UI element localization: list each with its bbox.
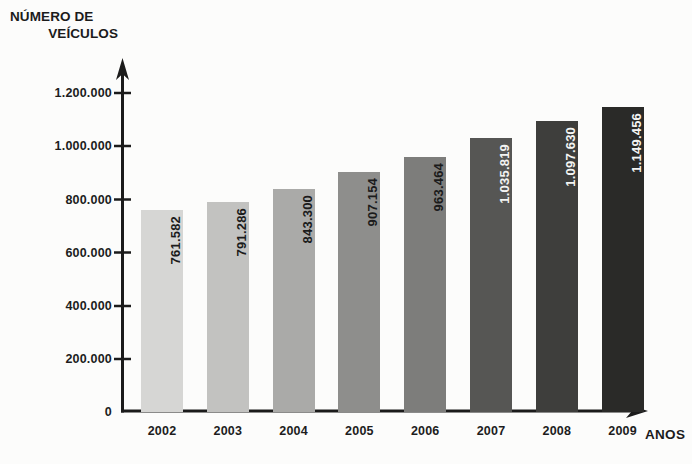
bar-chart: NÚMERO DE VEÍCULOS 0200.000400.000600.00…: [0, 0, 692, 464]
bar-value-label-2004: 843.300: [294, 170, 307, 218]
bar-2005[interactable]: 907.154: [338, 172, 380, 412]
x-tick-label-2003: 2003: [195, 424, 261, 438]
bar-value-text: 963.464: [432, 163, 445, 211]
bar-value-label-2005: 907.154: [359, 153, 372, 201]
x-tick-label-2004: 2004: [261, 424, 327, 438]
y-tick-label-1000000: 1.000.000: [2, 139, 112, 153]
y-tick-label-800000: 800.000: [2, 193, 112, 207]
bar-2004[interactable]: 843.300: [273, 189, 315, 412]
plot-area: 761.582791.286843.300907.154963.4641.035…: [122, 60, 622, 412]
bar-value-text: 1.035.819: [498, 144, 511, 204]
x-tick-label-2006: 2006: [392, 424, 458, 438]
bar-2002[interactable]: 761.582: [141, 210, 183, 412]
bar-value-label-2008: 1.097.630: [557, 97, 570, 157]
bar-value-text: 843.300: [300, 195, 313, 243]
bar-value-label-2002: 761.582: [162, 192, 175, 240]
x-tick-label-2008: 2008: [524, 424, 590, 438]
bar-value-label-2009: 1.149.456: [623, 84, 636, 144]
x-axis-title: ANOS: [645, 427, 685, 442]
bar-value-text: 791.286: [234, 208, 247, 256]
bar-value-text: 1.149.456: [629, 113, 642, 173]
y-axis-tick-labels: 0200.000400.000600.000800.0001.000.0001.…: [0, 0, 112, 464]
x-tick-label-2007: 2007: [458, 424, 524, 438]
y-tick-label-0: 0: [2, 405, 112, 419]
bar-value-label-2003: 791.286: [228, 184, 241, 232]
bar-2009[interactable]: 1.149.456: [602, 107, 644, 412]
bar-value-label-2007: 1.035.819: [491, 114, 504, 174]
bar-2008[interactable]: 1.097.630: [536, 121, 578, 412]
bar-value-text: 907.154: [366, 178, 379, 226]
bar-value-text: 761.582: [169, 216, 182, 264]
y-tick-label-600000: 600.000: [2, 246, 112, 260]
bar-2006[interactable]: 963.464: [404, 157, 446, 412]
x-tick-label-2005: 2005: [326, 424, 392, 438]
bar-2007[interactable]: 1.035.819: [470, 138, 512, 412]
y-tick-label-400000: 400.000: [2, 299, 112, 313]
bar-2003[interactable]: 791.286: [207, 202, 249, 412]
y-tick-label-1200000: 1.200.000: [2, 86, 112, 100]
bar-value-text: 1.097.630: [563, 127, 576, 187]
y-tick-label-200000: 200.000: [2, 352, 112, 366]
bar-value-label-2006: 963.464: [425, 138, 438, 186]
x-tick-label-2002: 2002: [129, 424, 195, 438]
